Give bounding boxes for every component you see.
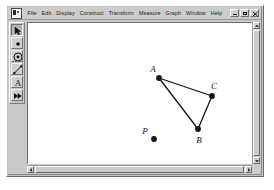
menu-item-measure[interactable]: Measure — [136, 9, 163, 17]
minimize-icon — [231, 10, 238, 16]
chevron-up-icon — [255, 24, 259, 26]
scroll-down-button[interactable] — [253, 157, 260, 164]
chevron-down-icon — [255, 160, 259, 162]
close-icon — [251, 10, 258, 16]
scrollbar-corner — [252, 165, 260, 173]
scroll-right-button[interactable] — [245, 166, 252, 173]
segment-AB[interactable] — [159, 78, 198, 129]
menu-item-display[interactable]: Display — [54, 9, 77, 17]
mdi-window-buttons — [230, 9, 259, 17]
text-a-icon: A — [12, 77, 23, 88]
menu-item-construct[interactable]: Construct — [77, 9, 106, 17]
sketch-geometry-svg: ABCP — [28, 23, 252, 164]
close-button[interactable] — [250, 9, 259, 17]
point-label-P[interactable]: P — [141, 126, 148, 136]
menu-item-transform[interactable]: Transform — [106, 9, 136, 17]
minimize-button[interactable] — [230, 9, 239, 17]
straightedge-segment-tool[interactable] — [11, 63, 23, 75]
custom-marker-tool[interactable] — [11, 89, 23, 101]
vertical-scroll-thumb[interactable] — [253, 30, 260, 156]
toolbox-palette: A — [9, 22, 25, 104]
vertical-scrollbar[interactable] — [252, 22, 260, 164]
segment-BC[interactable] — [198, 96, 212, 129]
horizontal-scroll-thumb[interactable] — [35, 166, 244, 173]
menu-bar: File Edit Display Construct Transform Me… — [8, 7, 261, 20]
scroll-left-button[interactable] — [27, 166, 34, 173]
point-label-C[interactable]: C — [211, 81, 218, 91]
svg-text:A: A — [15, 78, 22, 88]
segment-line-icon — [12, 64, 23, 75]
restore-icon — [241, 10, 248, 16]
segment-AC[interactable] — [159, 78, 212, 96]
chevron-right-icon — [248, 168, 250, 172]
restore-button[interactable] — [240, 9, 249, 17]
sketchpad-app-icon[interactable] — [11, 8, 22, 19]
menu-item-graph[interactable]: Graph — [163, 9, 183, 17]
sketch-canvas[interactable]: ABCP — [27, 22, 252, 164]
scroll-up-button[interactable] — [253, 22, 260, 29]
point-dot-icon — [12, 38, 23, 49]
chevron-left-icon — [29, 168, 31, 172]
point-P[interactable] — [151, 136, 157, 142]
menu-item-help[interactable]: Help — [208, 9, 225, 17]
compass-circle-tool[interactable] — [11, 50, 23, 62]
menu-item-edit[interactable]: Edit — [39, 9, 54, 17]
sketchpad-window: File Edit Display Construct Transform Me… — [6, 5, 264, 177]
point-label-A[interactable]: A — [149, 64, 156, 74]
segments-group — [159, 78, 212, 129]
text-tool[interactable]: A — [11, 76, 23, 88]
point-C[interactable] — [209, 93, 215, 99]
window-client-area: File Edit Display Construct Transform Me… — [8, 7, 262, 175]
menu-item-window[interactable]: Window — [184, 9, 209, 17]
circle-compass-icon — [12, 51, 23, 62]
double-arrow-icon — [12, 90, 23, 101]
arrow-cursor-icon — [12, 25, 23, 36]
menu-item-file[interactable]: File — [25, 9, 39, 17]
point-B[interactable] — [195, 126, 201, 132]
point-tool[interactable] — [11, 37, 23, 49]
point-label-B[interactable]: B — [196, 135, 202, 145]
point-A[interactable] — [156, 75, 162, 81]
selection-arrow-tool[interactable] — [11, 24, 23, 36]
horizontal-scrollbar[interactable] — [27, 165, 252, 173]
